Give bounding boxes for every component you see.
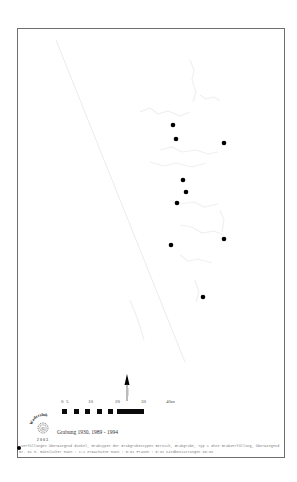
footnote-line-1: Verfüllungen überwiegend dunkel, Grabtyp… — [21, 444, 279, 448]
grave-point[interactable] — [174, 137, 179, 142]
logo-year-text: 2003 — [37, 437, 49, 442]
scale-segment — [108, 409, 113, 414]
scale-label-0: 0 — [61, 399, 64, 404]
grave-point[interactable] — [222, 237, 227, 242]
north-arrow-icon — [125, 374, 130, 401]
scale-segment — [97, 409, 102, 414]
grave-point[interactable] — [169, 243, 174, 248]
logo-arc-text: Wadersloh — [28, 412, 49, 425]
scale-segment — [85, 409, 90, 414]
scale-segment — [74, 409, 79, 414]
scale-label-5: 5 — [66, 399, 69, 404]
grave-point[interactable] — [181, 178, 186, 183]
logo-stamp: Wadersloh 83 2003 — [28, 410, 58, 442]
grave-point[interactable] — [175, 201, 180, 206]
svg-text:Wadersloh: Wadersloh — [28, 412, 49, 425]
grave-point[interactable] — [171, 123, 176, 128]
excavation-boundary-line — [56, 40, 185, 362]
map-caption: Grabung 1930, 1989 - 1994 — [57, 429, 118, 435]
footnote-line-2: Nr. 81 M. männlicher Mann : 1:1 erwachse… — [19, 450, 213, 454]
scale-segment-long — [117, 409, 144, 414]
logo-center-text: 83 — [41, 427, 45, 431]
grave-point[interactable] — [222, 141, 227, 146]
scale-label-30: 30 — [141, 399, 146, 404]
scale-segment — [62, 409, 67, 414]
scale-label-10: 10 — [88, 399, 93, 404]
scale-label-40m: 40m — [166, 399, 175, 404]
scale-label-20: 20 — [115, 399, 120, 404]
faint-grave-outlines — [130, 60, 224, 340]
grave-point[interactable] — [201, 295, 206, 300]
grave-point[interactable] — [184, 190, 189, 195]
